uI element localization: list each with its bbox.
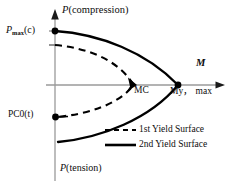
pc0-connector-line: [58, 117, 68, 118]
pc0-point-marker: [52, 114, 59, 121]
first-yield-surface-curve-upper: [55, 45, 133, 84]
pmax-label: Pmax(c): [6, 25, 35, 35]
p-axis-label: P(compression): [62, 5, 129, 16]
yield-surface-diagram: P(compression) M Pmax(c) PC0(t) MC My， m…: [0, 0, 232, 187]
pmax-label-subscript: max: [12, 29, 24, 36]
first-yield-surface-curve-lower: [57, 88, 131, 117]
p-tension-label: P(tension): [60, 163, 102, 173]
p-axis-label-text: (compression): [68, 4, 128, 15]
m-axis-arrowhead-icon: [216, 82, 226, 89]
mymax-label: My， max: [170, 87, 212, 97]
p-tension-label-text: (tension): [66, 162, 102, 173]
mc-label: MC: [134, 86, 149, 96]
m-axis-label: M: [196, 58, 205, 69]
pmax-point-marker: [52, 28, 59, 35]
legend-item-second-yield-surface: 2nd Yield Surface: [139, 140, 207, 150]
pc0-label: PC0(t): [8, 110, 33, 120]
legend-item-first-yield-surface: 1st Yield Surface: [139, 125, 204, 135]
p-axis-arrowhead-icon: [51, 9, 59, 20]
pmax-label-suffix: (c): [24, 24, 35, 35]
